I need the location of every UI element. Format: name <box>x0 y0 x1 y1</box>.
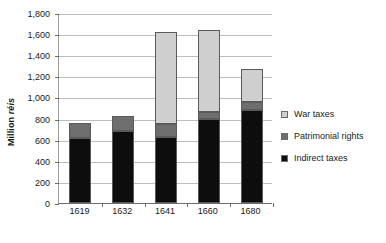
y-axis-tick <box>55 98 59 99</box>
y-axis-tick <box>55 77 59 78</box>
bar-segment <box>198 30 220 112</box>
y-axis-tick <box>55 56 59 57</box>
chart-legend: War taxesPatrimonial rightsIndirect taxe… <box>281 103 385 169</box>
x-axis-tick <box>273 203 274 207</box>
y-axis-tick <box>55 162 59 163</box>
y-axis-tick-label: 600 <box>35 136 50 146</box>
legend-item: Indirect taxes <box>281 147 385 169</box>
bar-segment <box>155 137 177 204</box>
y-axis-title-plain: Million <box>6 116 16 145</box>
bar-segment <box>241 102 263 110</box>
legend-swatch-icon <box>281 111 288 118</box>
bar-segment <box>155 124 177 137</box>
legend-item: War taxes <box>281 103 385 125</box>
plot-area <box>58 14 272 204</box>
x-axis-tick-label: 1619 <box>69 206 89 216</box>
bar-group <box>198 13 220 203</box>
y-axis-tick <box>55 141 59 142</box>
y-axis-tick-label: 0 <box>45 199 50 209</box>
y-axis-tick-label: 200 <box>35 178 50 188</box>
y-axis-tick <box>55 14 59 15</box>
legend-label: War taxes <box>294 109 334 119</box>
bar-segment <box>155 32 177 124</box>
legend-label: Patrimonial rights <box>294 131 364 141</box>
y-axis-tick-labels: 02004006008001,0001,2001,4001,6001,800 <box>16 14 54 204</box>
legend-label: Indirect taxes <box>294 153 348 163</box>
y-axis-tick <box>55 120 59 121</box>
y-axis-tick-label: 1,000 <box>27 93 50 103</box>
bar-segment <box>241 69 263 102</box>
bar-group <box>69 13 91 203</box>
y-axis-tick-label: 1,400 <box>27 51 50 61</box>
bar-group <box>155 13 177 203</box>
x-axis-tick-labels: 16191632164116601680 <box>58 206 272 224</box>
y-axis-tick <box>55 35 59 36</box>
bar-segment <box>69 123 91 138</box>
legend-swatch-icon <box>281 155 288 162</box>
bar-segment <box>198 112 220 118</box>
bar-segment <box>112 116 134 131</box>
y-axis-tick-label: 1,800 <box>27 9 50 19</box>
bar-group <box>112 13 134 203</box>
bar-group <box>241 13 263 203</box>
bar-segment <box>241 110 263 203</box>
legend-item: Patrimonial rights <box>281 125 385 147</box>
y-axis-tick-label: 800 <box>35 115 50 125</box>
x-axis-tick-label: 1641 <box>155 206 175 216</box>
y-axis-tick-label: 1,600 <box>27 30 50 40</box>
y-axis-title-italic: réis <box>6 97 16 113</box>
legend-swatch-icon <box>281 133 288 140</box>
y-axis-tick <box>55 183 59 184</box>
y-axis-tick <box>55 204 59 205</box>
bar-segment <box>69 138 91 203</box>
x-axis-tick-label: 1680 <box>241 206 261 216</box>
chart-container: Million réis 02004006008001,0001,2001,40… <box>0 0 386 243</box>
x-axis-tick-label: 1632 <box>112 206 132 216</box>
bar-segment <box>112 131 134 203</box>
bar-segment <box>198 119 220 203</box>
bars-layer <box>59 14 272 203</box>
y-axis-tick-label: 400 <box>35 157 50 167</box>
y-axis-tick-label: 1,200 <box>27 72 50 82</box>
x-axis-tick-label: 1660 <box>198 206 218 216</box>
